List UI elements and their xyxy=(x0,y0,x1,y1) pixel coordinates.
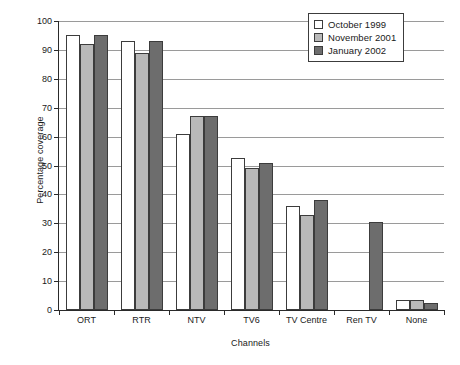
x-tick xyxy=(279,310,280,315)
y-tick-label: 0 xyxy=(47,305,52,315)
bar xyxy=(424,303,438,310)
y-tick-label: 10 xyxy=(42,276,52,286)
bar xyxy=(80,44,94,310)
legend-label: November 2001 xyxy=(328,32,396,43)
y-tick-label: 90 xyxy=(42,45,52,55)
bar xyxy=(204,116,218,310)
bar xyxy=(190,116,204,310)
bar xyxy=(300,215,314,310)
x-axis-title: Channels xyxy=(58,338,443,348)
x-tick xyxy=(224,310,225,315)
bar-group xyxy=(334,21,389,310)
bar-group xyxy=(169,21,224,310)
y-tick-label: 60 xyxy=(42,132,52,142)
legend-swatch-icon xyxy=(314,33,323,42)
legend-item: October 1999 xyxy=(314,18,396,31)
bar xyxy=(410,300,424,310)
y-tick-label: 50 xyxy=(42,161,52,171)
y-tick-label: 30 xyxy=(42,218,52,228)
bar-group xyxy=(59,21,114,310)
x-tick-label: NTV xyxy=(188,315,206,325)
bar-chart: Percentage coverage 01020304050607080901… xyxy=(0,0,460,365)
y-tick-label: 20 xyxy=(42,247,52,257)
x-tick xyxy=(389,310,390,315)
y-tick-label: 100 xyxy=(37,16,52,26)
bar-group xyxy=(279,21,334,310)
bar xyxy=(245,168,259,310)
legend-label: October 1999 xyxy=(328,19,386,30)
bar xyxy=(135,53,149,310)
bar xyxy=(176,134,190,310)
bar xyxy=(314,200,328,310)
legend-item: January 2002 xyxy=(314,44,396,57)
x-tick xyxy=(444,310,445,315)
x-tick xyxy=(114,310,115,315)
bar xyxy=(121,41,135,310)
plot-area: 0102030405060708090100 ORTRTRNTVTV6TV Ce… xyxy=(58,21,444,311)
bar xyxy=(369,222,383,310)
bar-group xyxy=(224,21,279,310)
legend-label: January 2002 xyxy=(328,45,386,56)
bar xyxy=(286,206,300,310)
bar xyxy=(231,158,245,310)
legend-swatch-icon xyxy=(314,46,323,55)
x-tick xyxy=(169,310,170,315)
bar xyxy=(149,41,163,310)
x-tick xyxy=(334,310,335,315)
legend-swatch-icon xyxy=(314,20,323,29)
x-tick xyxy=(59,310,60,315)
x-tick-label: TV6 xyxy=(243,315,260,325)
x-tick-label: None xyxy=(406,315,428,325)
legend-item: November 2001 xyxy=(314,31,396,44)
legend: October 1999November 2001January 2002 xyxy=(308,13,404,62)
x-tick-label: ORT xyxy=(77,315,96,325)
bar xyxy=(396,300,410,310)
x-tick-label: TV Centre xyxy=(286,315,327,325)
bar xyxy=(94,35,108,310)
bar xyxy=(66,35,80,310)
bar-group xyxy=(389,21,444,310)
y-tick-label: 70 xyxy=(42,103,52,113)
bar xyxy=(259,163,273,310)
x-tick-label: RTR xyxy=(132,315,150,325)
y-tick-label: 40 xyxy=(42,189,52,199)
x-tick-label: Ren TV xyxy=(346,315,376,325)
bar-group xyxy=(114,21,169,310)
y-tick-label: 80 xyxy=(42,74,52,84)
